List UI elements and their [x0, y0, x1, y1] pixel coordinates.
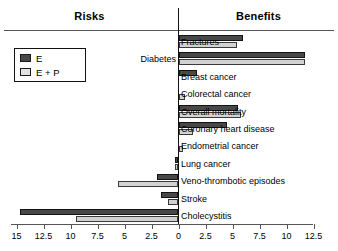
bar-e-plus-p [179, 59, 305, 65]
risks-header: Risks [0, 10, 179, 22]
category-label: Fractures [181, 36, 219, 48]
category-label: Cholecystitis [181, 210, 232, 222]
bar-e [175, 157, 178, 163]
x-axis-tick [44, 224, 45, 229]
category-label: Overall mortality [181, 106, 246, 118]
benefits-header: Benefits [179, 10, 338, 22]
bar-e-plus-p [175, 164, 178, 170]
category-label: Veno-thrombotic episodes [181, 175, 285, 187]
category-label: Endometrial cancer [181, 140, 259, 152]
x-axis-tick [260, 224, 261, 229]
category-label: Diabetes [140, 53, 176, 65]
bar-e [20, 209, 179, 215]
x-axis-tick [179, 224, 180, 229]
x-axis-end-cap [17, 224, 18, 228]
x-axis-end-cap [314, 224, 315, 228]
x-axis-tick [98, 224, 99, 229]
category-label: Coronary heart disease [181, 123, 275, 135]
hormone-therapy-risk-benefit-chart: Risks Benefits FracturesDiabetesBreast c… [0, 0, 338, 251]
category-label: Colorectal cancer [181, 88, 251, 100]
chart-row: Stroke [0, 190, 338, 208]
chart-row: Endometrial cancer [0, 137, 338, 155]
x-axis-tick [152, 224, 153, 229]
chart-row: Colorectal cancer [0, 85, 338, 103]
x-axis-tick-label: 12.5 [294, 231, 334, 241]
bar-e [179, 52, 305, 58]
legend: E E + P [14, 48, 86, 82]
x-axis-tick [233, 224, 234, 229]
legend-label-e: E [36, 52, 42, 65]
bar-e-plus-p [76, 216, 179, 222]
legend-swatch-e-icon [20, 54, 31, 62]
bar-e [157, 174, 179, 180]
category-label: Stroke [181, 193, 207, 205]
chart-row: Lung cancer [0, 155, 338, 173]
legend-label-e-plus-p: E + P [36, 66, 60, 79]
chart-row: Veno-thrombotic episodes [0, 172, 338, 190]
bar-e-plus-p [168, 199, 179, 205]
bar-e [161, 192, 178, 198]
category-label: Breast cancer [181, 71, 237, 83]
chart-row: Overall mortality [0, 103, 338, 121]
category-label: Lung cancer [181, 158, 231, 170]
x-axis: 1512.5107.552.502.557.51012.5 [0, 224, 338, 251]
header-divider-rule [4, 30, 334, 31]
legend-swatch-e-plus-p-icon [20, 68, 31, 76]
x-axis-tick [71, 224, 72, 229]
x-axis-tick [125, 224, 126, 229]
x-axis-line [11, 224, 313, 225]
chart-row: Cholecystitis [0, 207, 338, 225]
chart-row: Coronary heart disease [0, 120, 338, 138]
bar-e-plus-p [118, 181, 178, 187]
x-axis-tick [206, 224, 207, 229]
x-axis-tick [287, 224, 288, 229]
